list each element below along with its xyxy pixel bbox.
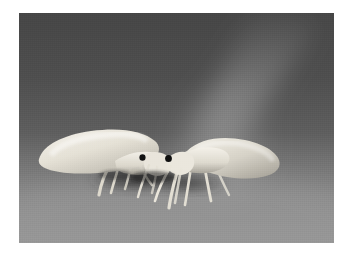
right-whitefly-eye — [165, 155, 172, 162]
screenshot-canvas: Black and white macro photograph of two … — [0, 0, 354, 258]
photo-artwork — [19, 13, 334, 243]
left-whitefly-eye — [139, 154, 145, 161]
photograph — [19, 13, 334, 243]
photo-background — [19, 13, 334, 243]
